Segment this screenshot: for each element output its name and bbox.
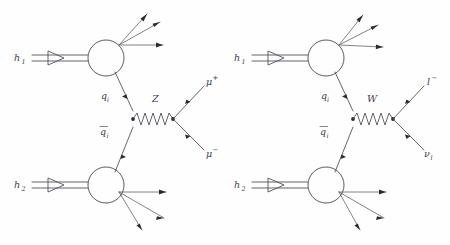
quark-subscript: i xyxy=(107,96,109,104)
w-boson-symbol: W xyxy=(367,93,378,104)
quark-label: q i xyxy=(321,90,329,104)
hadron-1-label: h 1 xyxy=(234,52,246,66)
quark-line xyxy=(115,72,133,111)
antiquark-line xyxy=(335,127,353,172)
muon-minus-symbol: μ xyxy=(206,148,212,159)
lower-jet-arrow-2 xyxy=(376,216,384,220)
neutrino-label: ν l xyxy=(424,148,433,162)
neutrino-line xyxy=(393,119,424,150)
hadron-2-incoming-line xyxy=(32,178,88,192)
diagram-charged-current: h 1 q i xyxy=(234,15,437,230)
upper-jet-arrow-2 xyxy=(371,25,379,30)
upper-jet-arrow-3 xyxy=(156,43,163,48)
lepton-minus-label: l − xyxy=(427,74,437,87)
upper-jet-arrow-3 xyxy=(376,44,383,49)
hadron-1-symbol: h xyxy=(14,52,20,63)
antiquark-label: q i xyxy=(320,126,329,140)
lepton-minus-line xyxy=(393,86,424,119)
lower-jet-arrow-1 xyxy=(379,190,386,195)
hadron-2-label: h 2 xyxy=(14,179,26,193)
muon-plus-label: μ + xyxy=(206,74,218,87)
antiquark-label: q i xyxy=(100,126,109,140)
upper-jet-group xyxy=(119,14,163,47)
hadron-1-incoming-line xyxy=(252,51,308,65)
neutrino-symbol: ν xyxy=(424,148,430,159)
quark-direction-arrow xyxy=(122,94,128,99)
muon-plus-superscript: + xyxy=(213,74,219,82)
lower-hadron-blob xyxy=(88,167,124,203)
upper-hadron-blob xyxy=(308,40,344,76)
lepton-minus-symbol: l xyxy=(427,76,430,87)
upper-hadron-blob xyxy=(88,40,124,76)
muon-minus-label: μ − xyxy=(206,146,218,159)
lower-jet-arrow-3 xyxy=(355,224,361,231)
antiquark-symbol: q xyxy=(320,126,326,137)
hadron-2-symbol: h xyxy=(14,179,20,190)
lower-jet-arrow-2 xyxy=(156,216,164,220)
muon-minus-superscript: − xyxy=(213,146,219,154)
hadron-1-subscript: 1 xyxy=(22,58,26,66)
hadron-1-direction-arrow xyxy=(48,51,64,65)
antiquark-subscript: i xyxy=(327,132,329,140)
lepton-minus-superscript: − xyxy=(432,74,438,82)
quark-direction-arrow xyxy=(342,94,348,99)
lower-jet-group xyxy=(119,190,166,230)
muon-minus-line xyxy=(173,119,204,150)
diagram-neutral-current: h 1 q i xyxy=(14,14,218,230)
muon-plus-line xyxy=(173,86,204,119)
lower-hadron-blob xyxy=(308,167,344,203)
quark-line xyxy=(335,72,353,111)
feynman-diagram-figure: h 1 q i xyxy=(0,0,450,245)
quark-label: q i xyxy=(101,90,109,104)
z-boson-symbol: Z xyxy=(151,93,159,104)
muon-plus-symbol: μ xyxy=(206,76,212,87)
hadron-1-direction-arrow xyxy=(268,51,284,65)
w-boson-label: W xyxy=(367,93,378,104)
hadron-1-subscript: 1 xyxy=(242,58,246,66)
hadron-2-direction-arrow xyxy=(268,178,284,192)
quark-subscript: i xyxy=(327,96,329,104)
hadron-1-label: h 1 xyxy=(14,52,26,66)
antiquark-line xyxy=(115,127,133,172)
hadron-2-incoming-line xyxy=(252,178,308,192)
upper-jet-group xyxy=(339,15,383,49)
neutrino-subscript: l xyxy=(431,154,433,162)
hadron-2-symbol: h xyxy=(234,179,240,190)
lower-jet-arrow-3 xyxy=(137,224,143,231)
hadron-1-incoming-line xyxy=(32,51,88,65)
z-boson-propagator xyxy=(133,113,173,125)
hadron-2-subscript: 2 xyxy=(21,185,26,193)
antiquark-symbol: q xyxy=(100,126,106,137)
antiquark-subscript: i xyxy=(107,132,109,140)
w-boson-propagator xyxy=(353,113,393,125)
upper-jet-arrow-2 xyxy=(153,22,161,27)
lower-jet-group xyxy=(339,190,386,230)
hadron-2-direction-arrow xyxy=(48,178,64,192)
lower-jet-arrow-1 xyxy=(159,190,166,195)
hadron-2-subscript: 2 xyxy=(241,185,246,193)
hadron-2-label: h 2 xyxy=(234,179,246,193)
hadron-1-symbol: h xyxy=(234,52,240,63)
figure-canvas: h 1 q i xyxy=(0,0,450,245)
z-boson-label: Z xyxy=(151,93,159,104)
